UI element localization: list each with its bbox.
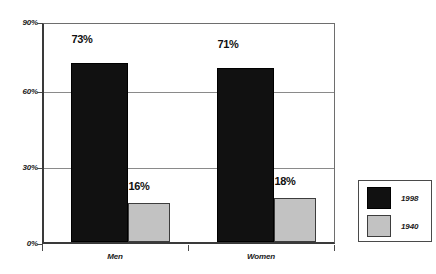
bar-value-women-1998: 71% [190,38,266,50]
legend-row-1940: 1940 [359,214,431,238]
legend: 1998 1940 [358,180,432,242]
legend-swatch-1940 [367,215,391,237]
bar-women-1998 [217,68,274,242]
y-tick-label-60: 60% [8,87,38,96]
bar-men-1998 [71,63,128,242]
x-category-label-women: Women [221,252,301,261]
x-tick-mark-left [42,245,43,251]
legend-label-1940: 1940 [401,222,418,231]
bar-value-women-1940: 18% [252,175,318,187]
y-tick-label-90: 90% [8,18,38,27]
bar-men-1940 [128,203,170,242]
bar-women-1940 [274,198,316,242]
bar-chart: 90% 60% 30% 0% 73% 16% 71% 18% Men Women [0,0,436,274]
y-tick-label-30: 30% [8,163,38,172]
legend-label-1998: 1998 [401,194,418,203]
x-tick-mark-middle [188,245,189,251]
legend-swatch-1998 [367,187,391,209]
legend-row-1998: 1998 [359,186,431,210]
x-tick-mark-right [334,245,335,251]
plot-area [42,23,335,244]
bar-value-men-1998: 73% [44,33,120,45]
bar-value-men-1940: 16% [106,180,172,192]
x-category-label-men: Men [75,252,155,261]
y-tick-label-0: 0% [8,239,38,248]
